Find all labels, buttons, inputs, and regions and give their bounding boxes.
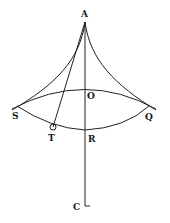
label-s: S [12,111,19,121]
arc-upper-s-o-q [12,90,156,110]
curve-a-s [12,22,85,110]
label-q: Q [145,112,153,122]
label-c: C [73,202,80,212]
label-a: A [80,9,89,19]
arc-lower-s-r-q [17,106,149,130]
label-t: T [48,133,55,143]
line-a-t [53,22,85,127]
geometry-diagram: A O S Q T R C [0,0,170,223]
label-r: R [88,134,96,144]
curve-a-q [85,22,156,110]
label-o: O [87,91,95,101]
